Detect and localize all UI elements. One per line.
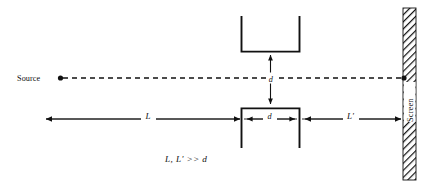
screen-group: Screen: [403, 8, 416, 180]
screen-intersection-dot: [401, 75, 406, 80]
optical-axis-group: [58, 75, 407, 80]
screen-label: Screen: [406, 98, 415, 122]
caption-label: L, L' >> d: [164, 154, 207, 164]
L-prime-label: L': [346, 111, 355, 121]
L-label: L: [144, 111, 150, 121]
upper-barrier-outline: [242, 16, 300, 52]
diagram-canvas: Screen Source d L: [0, 0, 433, 185]
horizontal-dimension-row: L d L': [46, 110, 401, 122]
optics-diagram: Screen Source d L: [0, 0, 433, 185]
upper-barrier: [242, 16, 300, 52]
source-point-dot: [58, 75, 63, 80]
vertical-separation-dimension: d: [266, 55, 275, 104]
source-label: Source: [17, 74, 41, 83]
